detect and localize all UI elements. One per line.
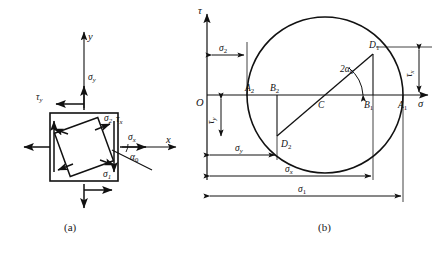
dim-label-tau-y: τy (206, 117, 217, 124)
panel-a-stress-element: y x σy τy σx τx (24, 31, 176, 208)
angle-2alpha0-label: 2α0 (340, 64, 354, 75)
sigma-x-label: σx (128, 132, 136, 143)
panel-b-mohrs-circle: τ σ O 2α0 D1 D2 C B1 A1 A2 B2 (196, 5, 432, 202)
figure-root: y x σy τy σx τx (0, 0, 437, 253)
caption-panel-a: (a) (64, 221, 76, 233)
dim-sigma2-top-left (212, 42, 247, 96)
alpha0-label: α0 (130, 152, 139, 163)
point-label-A1: A1 (397, 100, 407, 111)
sigma2-label-a: σ2 (104, 113, 113, 124)
dim-label-sigma2: σ2 (219, 43, 228, 54)
axis-y-label: y (87, 31, 93, 42)
caption-panel-b: (b) (318, 221, 331, 233)
sigma1-label-a: σ1 (103, 169, 111, 180)
dim-label-tau-x: τx (404, 71, 415, 77)
point-label-B2: B2 (270, 83, 280, 94)
point-label-C: C (318, 100, 325, 110)
tau-y-label: τy (36, 92, 43, 103)
point-label-D1: D1 (368, 40, 379, 51)
sigma-y-label: σy (88, 72, 97, 83)
axis-x-label: x (165, 134, 171, 145)
point-label-B1: B1 (364, 100, 373, 111)
dim-label-sigma-y: σy (235, 143, 244, 154)
point-label-D2: D2 (280, 139, 292, 150)
tau-x-label: τx (116, 114, 122, 125)
dim-label-sigma-1: σ1 (298, 184, 306, 195)
mohr-tau-axis-label: τ (198, 5, 203, 16)
mohr-sigma-axis-label: σ (418, 98, 424, 109)
mohr-origin-label: O (196, 97, 204, 108)
point-label-A2: A2 (244, 83, 255, 94)
dim-tau-x-right (376, 47, 432, 92)
